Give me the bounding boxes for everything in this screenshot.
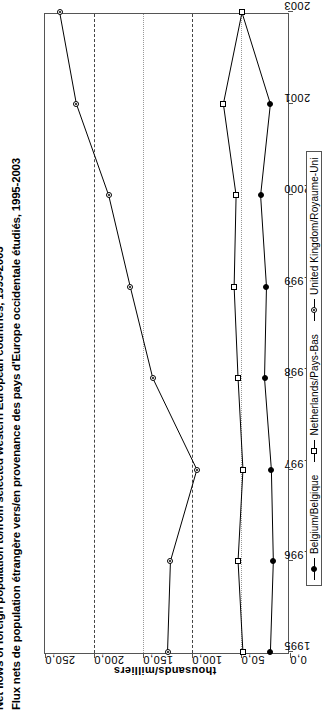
value-axis-title: thousands/milliers <box>113 665 216 677</box>
data-point <box>258 192 264 198</box>
data-point <box>263 284 269 290</box>
data-point <box>268 467 274 473</box>
data-point <box>233 192 239 198</box>
data-point <box>57 10 63 16</box>
legend-marker-icon <box>310 558 319 580</box>
series-line <box>60 13 197 653</box>
data-point <box>270 558 276 564</box>
legend-item: United Kingdom/Royaume-Uni <box>309 157 320 321</box>
legend-label: Belgium/Belgique <box>309 475 320 554</box>
legend-label: United Kingdom/Royaume-Uni <box>309 157 320 295</box>
legend-marker-icon <box>310 440 319 462</box>
series-line <box>242 13 273 653</box>
data-point <box>165 650 171 656</box>
data-point <box>240 467 246 473</box>
legend-label: Netherlands/Pays-Bas <box>309 334 320 436</box>
data-point <box>127 284 133 290</box>
data-point <box>220 101 226 107</box>
data-point <box>106 192 112 198</box>
value-tick-label: 50,0 <box>241 654 264 666</box>
figure-title-english: Net flows of foreign population to/from … <box>0 247 5 716</box>
chart-legend: Belgium/BelgiqueNetherlands/Pays-BasUnit… <box>306 151 322 586</box>
value-tick-label: 0,0 <box>290 654 307 666</box>
figure-canvas: Net flows of foreign population to/from … <box>0 0 332 716</box>
legend-item: Belgium/Belgique <box>309 475 320 580</box>
data-point <box>231 284 237 290</box>
data-point <box>194 467 200 473</box>
series-lines <box>45 12 290 653</box>
plot-area: 0,050,0100,0150,0200,0250,0 199519961997… <box>44 13 289 654</box>
data-point <box>267 650 273 656</box>
data-point <box>240 650 246 656</box>
data-point <box>150 375 156 381</box>
data-point <box>73 101 79 107</box>
data-point <box>267 101 273 107</box>
year-tick-label: 2003 <box>284 1 310 13</box>
data-point <box>235 558 241 564</box>
data-point <box>262 375 268 381</box>
figure-title-french: Flux nets de population étrangère vers/e… <box>10 158 22 716</box>
legend-marker-icon <box>310 299 319 321</box>
series-line <box>223 13 243 653</box>
value-tick-label: 250,0 <box>45 654 75 666</box>
data-point <box>167 558 173 564</box>
data-point <box>235 375 241 381</box>
data-point <box>239 10 245 16</box>
legend-item: Netherlands/Pays-Bas <box>309 334 320 462</box>
